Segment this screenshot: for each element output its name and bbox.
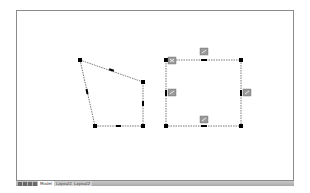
- dimension-badge[interactable]: [168, 57, 176, 64]
- midpoint-grip[interactable]: [201, 59, 207, 61]
- midpoint-grip[interactable]: [240, 90, 242, 96]
- first-tab-button[interactable]: [18, 182, 22, 186]
- dimension-badge[interactable]: [200, 48, 208, 55]
- vertex-grip[interactable]: [93, 124, 97, 128]
- rectangle-shape[interactable]: [164, 48, 251, 128]
- midpoint-grip[interactable]: [116, 125, 121, 127]
- previous-tab-button[interactable]: [23, 182, 27, 186]
- tab-model[interactable]: Model: [38, 181, 54, 186]
- midpoint-grip[interactable]: [165, 90, 167, 96]
- layout-tab-bar: Model Layout1 Layout2: [16, 180, 294, 186]
- vertex-grip[interactable]: [164, 124, 168, 128]
- midpoint-grip[interactable]: [86, 89, 89, 94]
- tab-layout2[interactable]: Layout2: [72, 181, 92, 186]
- midpoint-grip[interactable]: [201, 125, 207, 127]
- next-tab-button[interactable]: [28, 182, 32, 186]
- dimension-badge[interactable]: [243, 89, 251, 96]
- dimension-badge[interactable]: [168, 89, 176, 96]
- drawing-canvas[interactable]: [0, 0, 310, 193]
- midpoint-grip[interactable]: [142, 101, 144, 106]
- vertex-grip[interactable]: [141, 124, 145, 128]
- last-tab-button[interactable]: [33, 182, 37, 186]
- vertex-grip[interactable]: [239, 58, 243, 62]
- vertex-grip[interactable]: [164, 58, 168, 62]
- vertex-grip[interactable]: [141, 80, 145, 84]
- vertex-grip[interactable]: [239, 124, 243, 128]
- dimension-badge[interactable]: [200, 116, 208, 123]
- vertex-grip[interactable]: [78, 58, 82, 62]
- quadrilateral-shape[interactable]: [78, 58, 145, 128]
